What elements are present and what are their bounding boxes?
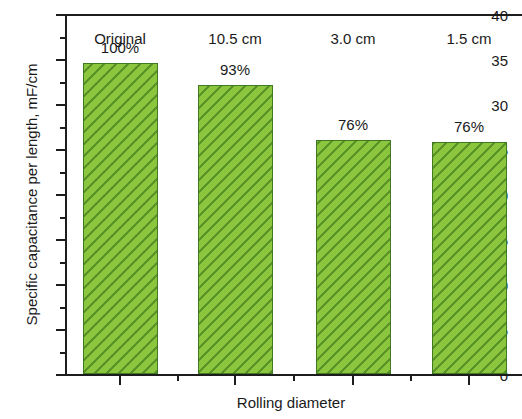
y-tick-major [56, 194, 65, 196]
bar-chart-figure: Specific capacitance per length, mF/cm 0… [0, 0, 522, 419]
x-tick-minor [293, 376, 295, 381]
bar [83, 63, 158, 374]
y-tick-minor [60, 82, 65, 84]
y-tick-major [56, 329, 65, 331]
bar-value-label: 76% [338, 116, 368, 133]
y-tick-major [56, 104, 65, 106]
y-tick-major [56, 284, 65, 286]
y-tick-label: 35 [491, 52, 508, 69]
y-tick-major [56, 149, 65, 151]
x-tick-major [119, 376, 121, 385]
x-tick-major [234, 376, 236, 385]
y-tick-minor [60, 172, 65, 174]
y-tick-minor [60, 217, 65, 219]
bar-value-label: 93% [220, 61, 250, 78]
x-tick-minor [410, 376, 412, 381]
y-axis-title: Specific capacitance per length, mF/cm [23, 15, 40, 375]
bar [198, 85, 273, 374]
x-tick-label: 10.5 cm [208, 30, 261, 47]
y-tick-minor [60, 307, 65, 309]
plot-area: 0510152025303540 Original10.5 cm3.0 cm1.… [65, 14, 522, 376]
x-tick-major [468, 376, 470, 385]
y-tick-minor [60, 262, 65, 264]
x-tick-minor [177, 376, 179, 381]
y-tick-major [56, 374, 65, 376]
bar-value-label: 76% [454, 118, 484, 135]
y-tick-major [56, 59, 65, 61]
x-tick-label: 3.0 cm [330, 30, 375, 47]
y-tick-label: 30 [491, 97, 508, 114]
y-tick-minor [60, 352, 65, 354]
y-tick-minor [60, 37, 65, 39]
y-axis-line [65, 14, 67, 376]
bar-value-label: 100% [101, 39, 139, 56]
bar [432, 142, 507, 374]
y-tick-label: 40 [491, 7, 508, 24]
x-tick-major [352, 376, 354, 385]
y-tick-major [56, 239, 65, 241]
y-tick-minor [60, 127, 65, 129]
y-tick-major [56, 14, 65, 16]
bar [316, 140, 391, 374]
x-axis-title: Rolling diameter [60, 394, 522, 411]
plot-top-border [65, 14, 522, 16]
x-tick-label: 1.5 cm [446, 30, 491, 47]
